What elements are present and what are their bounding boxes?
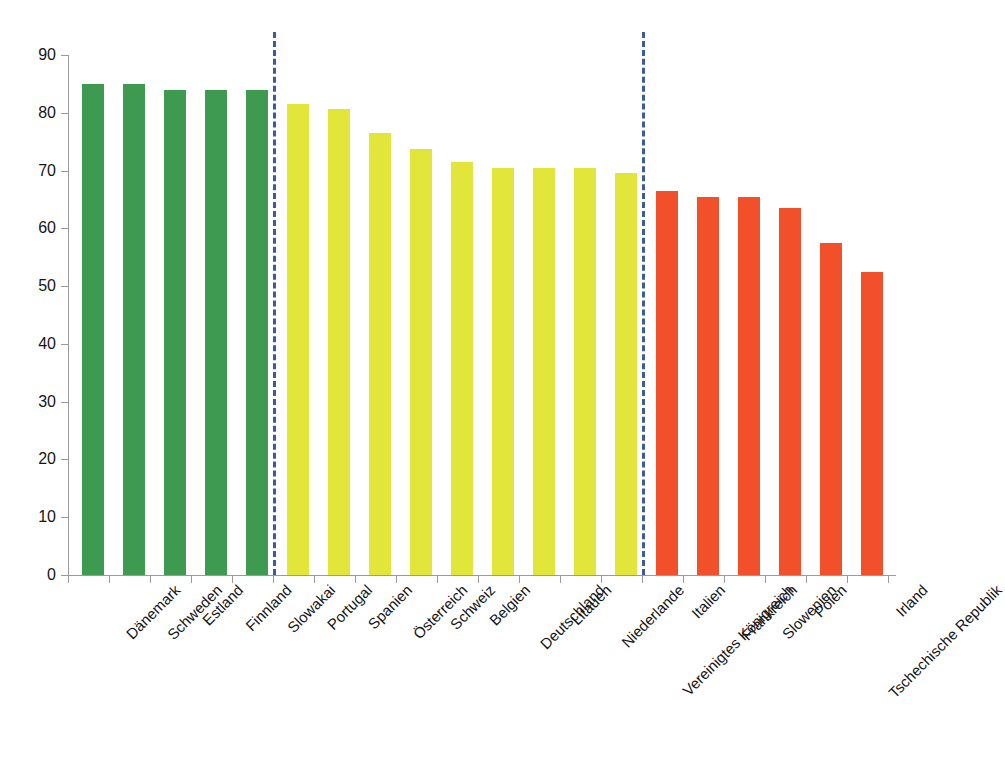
bar bbox=[615, 173, 637, 575]
x-tick-mark bbox=[642, 576, 643, 583]
y-tick-mark bbox=[61, 113, 68, 114]
bar bbox=[164, 90, 186, 575]
bar bbox=[738, 197, 760, 575]
y-tick-label: 10 bbox=[12, 509, 56, 525]
x-tick-mark bbox=[560, 576, 561, 583]
bar bbox=[369, 133, 391, 575]
x-tick-mark bbox=[191, 576, 192, 583]
bar bbox=[328, 109, 350, 575]
y-tick-label: 90 bbox=[12, 47, 56, 63]
bar bbox=[492, 168, 514, 575]
y-tick-label: 80 bbox=[12, 105, 56, 121]
x-axis-label: Irland bbox=[893, 582, 931, 620]
y-tick-label: 50 bbox=[12, 278, 56, 294]
y-tick-mark bbox=[61, 171, 68, 172]
y-tick-mark bbox=[61, 575, 68, 576]
bar bbox=[697, 197, 719, 575]
x-tick-mark bbox=[478, 576, 479, 583]
bar bbox=[123, 84, 145, 575]
y-tick-mark bbox=[61, 344, 68, 345]
y-tick-mark bbox=[61, 286, 68, 287]
x-axis-label: Polen bbox=[811, 582, 849, 620]
y-tick-label: 20 bbox=[12, 451, 56, 467]
x-tick-mark bbox=[888, 576, 889, 583]
bar bbox=[533, 168, 555, 575]
x-tick-mark bbox=[683, 576, 684, 583]
bars-layer bbox=[68, 55, 895, 575]
y-tick-label: 70 bbox=[12, 163, 56, 179]
bar bbox=[656, 191, 678, 575]
y-tick-mark bbox=[61, 459, 68, 460]
divider-yellow-red bbox=[642, 32, 645, 575]
x-tick-mark bbox=[314, 576, 315, 583]
bar bbox=[820, 243, 842, 575]
x-tick-mark bbox=[437, 576, 438, 583]
x-axis-label: Italien bbox=[689, 582, 728, 621]
y-tick-label: 40 bbox=[12, 336, 56, 352]
x-tick-mark bbox=[355, 576, 356, 583]
x-tick-mark bbox=[109, 576, 110, 583]
divider-green-yellow bbox=[273, 32, 276, 575]
y-tick-label: 60 bbox=[12, 220, 56, 236]
y-tick-label: 30 bbox=[12, 394, 56, 410]
bar bbox=[246, 90, 268, 575]
bar bbox=[82, 84, 104, 575]
x-tick-mark bbox=[847, 576, 848, 583]
x-axis-label: Spanien bbox=[365, 582, 415, 632]
y-tick-label: 0 bbox=[12, 567, 56, 583]
x-axis-label: Niederlande bbox=[619, 582, 687, 650]
bar bbox=[779, 208, 801, 575]
bar bbox=[574, 168, 596, 575]
x-tick-mark bbox=[806, 576, 807, 583]
x-tick-mark bbox=[273, 576, 274, 583]
bar bbox=[410, 149, 432, 575]
x-axis-line bbox=[68, 575, 896, 576]
x-tick-mark bbox=[150, 576, 151, 583]
y-tick-mark bbox=[61, 517, 68, 518]
x-tick-mark bbox=[724, 576, 725, 583]
bar bbox=[287, 104, 309, 575]
bar bbox=[205, 90, 227, 575]
x-tick-mark bbox=[396, 576, 397, 583]
y-tick-mark bbox=[61, 228, 68, 229]
bar bbox=[861, 272, 883, 575]
x-tick-mark bbox=[765, 576, 766, 583]
y-tick-mark bbox=[61, 402, 68, 403]
y-tick-mark bbox=[61, 55, 68, 56]
x-tick-mark bbox=[68, 576, 69, 583]
bar bbox=[451, 162, 473, 575]
